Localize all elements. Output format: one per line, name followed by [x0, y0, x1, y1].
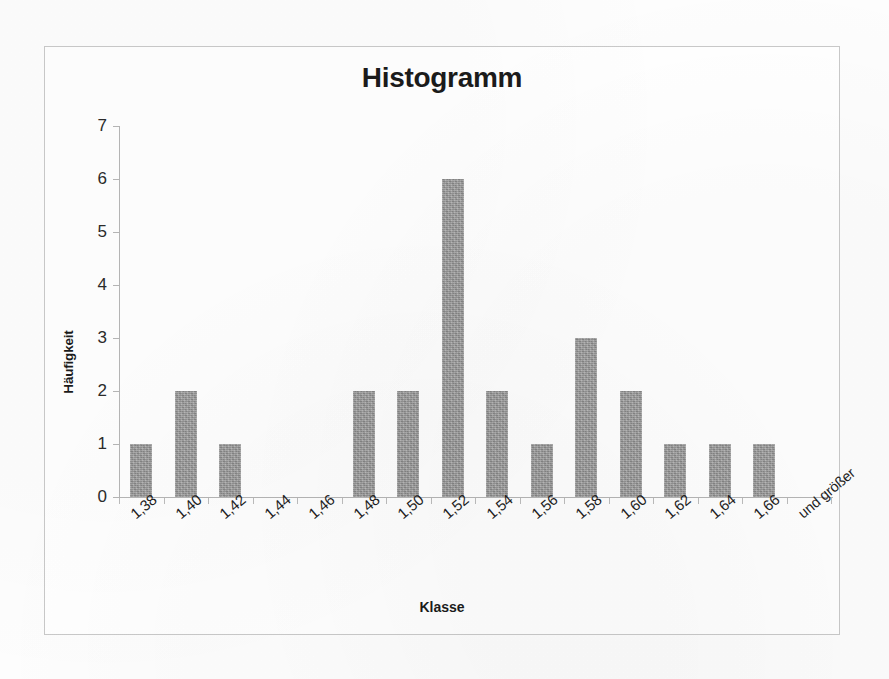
x-axis-tick — [698, 498, 699, 504]
x-axis-title: Klasse — [45, 599, 839, 615]
x-axis-tick — [386, 498, 387, 504]
y-axis-tick-label: 4 — [81, 276, 107, 293]
x-axis-tick — [342, 498, 343, 504]
bar — [486, 391, 508, 497]
scanned-page: Histogramm Häufigkeit 01234567 1,381,401… — [0, 0, 889, 679]
bar — [353, 391, 375, 497]
bar — [575, 338, 597, 497]
y-axis-title: Häufigkeit — [61, 302, 76, 422]
bar — [709, 444, 731, 497]
y-axis-tick-label: 0 — [81, 488, 107, 505]
y-axis-tick-label: 2 — [81, 382, 107, 399]
bar — [664, 444, 686, 497]
x-axis-tick — [475, 498, 476, 504]
bar — [219, 444, 241, 497]
x-axis-tick — [742, 498, 743, 504]
x-axis-tick — [297, 498, 298, 504]
bar — [397, 391, 419, 497]
x-axis-tick — [431, 498, 432, 504]
bar — [620, 391, 642, 497]
x-axis-tick — [253, 498, 254, 504]
bar — [442, 179, 464, 497]
x-axis-tick — [609, 498, 610, 504]
chart-frame: Histogramm Häufigkeit 01234567 1,381,401… — [44, 46, 840, 635]
x-axis-tick — [564, 498, 565, 504]
x-axis-tick — [520, 498, 521, 504]
x-axis-tick — [653, 498, 654, 504]
bar — [753, 444, 775, 497]
y-axis-tick-label: 1 — [81, 435, 107, 452]
x-axis-tick — [119, 498, 120, 504]
plot-area — [119, 126, 831, 497]
chart-title: Histogramm — [45, 62, 839, 94]
y-axis-tick-label: 3 — [81, 329, 107, 346]
x-axis-tick — [787, 498, 788, 504]
bar — [531, 444, 553, 497]
x-axis-tick — [164, 498, 165, 504]
y-axis-tick-label: 6 — [81, 170, 107, 187]
x-axis-tick — [208, 498, 209, 504]
y-axis-tick-label: 5 — [81, 223, 107, 240]
bar — [130, 444, 152, 497]
bar — [175, 391, 197, 497]
y-axis-tick-label: 7 — [81, 117, 107, 134]
